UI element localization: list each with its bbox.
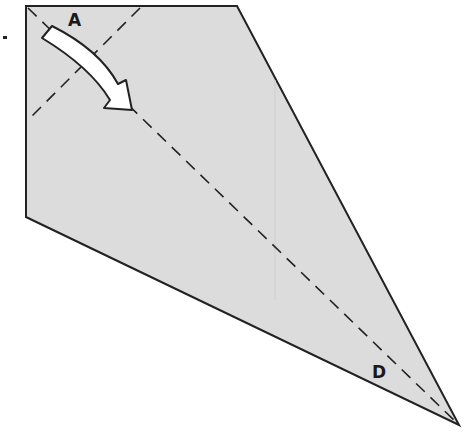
corner-label-d: D <box>372 364 386 381</box>
kite-paper-shape <box>0 0 465 438</box>
corner-label-a: A <box>68 12 81 29</box>
